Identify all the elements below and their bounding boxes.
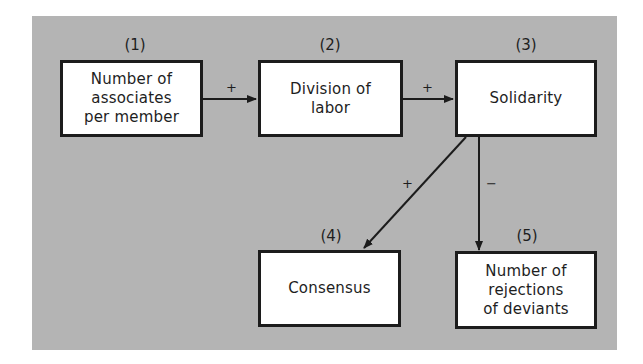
node-1-box: Number of associates per member <box>60 60 203 137</box>
node-4-label: Consensus <box>288 279 371 298</box>
edge-1-2-sign: + <box>226 80 237 95</box>
node-5-box: Number of rejections of deviants <box>455 251 597 329</box>
node-2-label: Division of labor <box>290 80 371 118</box>
node-1-number: (1) <box>115 36 155 54</box>
node-4-number: (4) <box>311 227 351 245</box>
node-5-label: Number of rejections of deviants <box>483 262 569 319</box>
edge-3-4-sign: + <box>402 176 413 191</box>
edge-3-5-sign: − <box>486 176 497 191</box>
node-2-number: (2) <box>310 36 350 54</box>
node-3-number: (3) <box>506 36 546 54</box>
node-4-box: Consensus <box>258 250 401 327</box>
node-5-number: (5) <box>507 227 547 245</box>
node-2-box: Division of labor <box>258 60 403 137</box>
node-3-label: Solidarity <box>490 89 563 108</box>
edge-2-3-sign: + <box>422 80 433 95</box>
edge-3-4 <box>364 137 466 248</box>
node-3-box: Solidarity <box>455 60 597 137</box>
node-1-label: Number of associates per member <box>84 70 179 127</box>
